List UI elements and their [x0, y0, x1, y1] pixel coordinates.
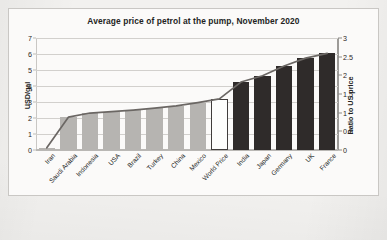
x-label-text: France: [318, 152, 337, 172]
y-tick-label-left: 7: [28, 34, 32, 43]
y-tick-label-left: 2: [28, 114, 32, 123]
y-tick-mark-right: [338, 112, 342, 113]
y-tick-label-left: 0: [28, 146, 32, 155]
x-label-text: India: [235, 152, 250, 167]
y-axis-title-right: Ratio to US price: [347, 77, 356, 135]
y-tick-mark-right: [338, 150, 342, 151]
y-tick-mark-right: [338, 56, 342, 57]
y-tick-label-left: 3: [28, 98, 32, 107]
y-tick-label-left: 1: [28, 130, 32, 139]
x-label-text: Mexico: [188, 152, 207, 172]
x-label-text: Japan: [255, 152, 272, 170]
line-series: [36, 38, 338, 150]
plot-area: 01234567 00.511.522.53: [36, 38, 338, 150]
x-label-text: Iran: [43, 152, 56, 165]
y-tick-mark-right: [338, 94, 342, 95]
y-tick-label-right: 0.5: [343, 127, 353, 136]
y-tick-mark-right: [338, 38, 342, 39]
y-tick-mark-right: [338, 131, 342, 132]
x-label-text: Brazil: [126, 152, 142, 169]
x-label-text: UK: [304, 152, 315, 163]
x-label-text: China: [169, 152, 186, 169]
y-tick-label-right: 3: [343, 34, 347, 43]
x-label-text: USA: [107, 152, 121, 167]
chart-frame: Average price of petrol at the pump, Nov…: [8, 8, 379, 196]
y-tick-label-left: 5: [28, 66, 32, 75]
y-tick-label-right: 2.5: [343, 52, 353, 61]
ratio-line: [47, 53, 327, 147]
y-tick-label-right: 1: [343, 108, 347, 117]
x-axis-category-labels: IranSaudi ArabiaIndonesiaUSABrazilTurkey…: [36, 152, 338, 194]
y-tick-label-right: 2: [343, 71, 347, 80]
y-tick-mark-right: [338, 75, 342, 76]
y-tick-label-left: 4: [28, 82, 32, 91]
x-label-text: Turkey: [145, 152, 164, 171]
chart-title: Average price of petrol at the pump, Nov…: [9, 16, 378, 26]
y-tick-label-right: 1.5: [343, 90, 353, 99]
y-tick-label-left: 6: [28, 50, 32, 59]
y-tick-label-right: 0: [343, 146, 347, 155]
